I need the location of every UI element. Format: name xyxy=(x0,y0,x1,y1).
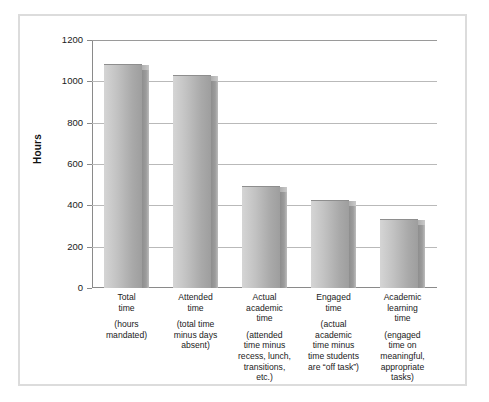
x-axis-label-sub: (actualacademictime minustime studentsar… xyxy=(299,319,368,372)
bar-slot xyxy=(230,40,299,288)
x-axis-label-main: Attendedtime xyxy=(161,292,230,313)
bar-slot xyxy=(368,40,437,288)
y-tick-label: 1000 xyxy=(62,77,83,87)
bar-top-face xyxy=(418,220,425,225)
bar[interactable] xyxy=(104,64,142,288)
plot-area: 020040060080010001200 xyxy=(92,40,437,288)
bar[interactable] xyxy=(380,219,418,288)
bar-side-face xyxy=(211,81,218,288)
x-axis-label-main: Engagedtime xyxy=(299,292,368,313)
x-axis-label-main: Actualacademictime xyxy=(230,292,299,324)
y-tick-label: 200 xyxy=(67,242,83,252)
bar-slot xyxy=(92,40,161,288)
bar[interactable] xyxy=(242,186,280,288)
x-axis-label-main: Totaltime xyxy=(92,292,161,313)
bar-side-face xyxy=(142,70,149,288)
y-tick-label: 400 xyxy=(67,201,83,211)
x-axis-label-sub: (engagedtime onmeaningful,appropriatetas… xyxy=(368,330,437,383)
x-axis-label: Attendedtime(total timeminus daysabsent) xyxy=(161,292,230,351)
x-axis-label-sub: (total timeminus daysabsent) xyxy=(161,319,230,351)
bar-top-face xyxy=(349,201,356,206)
bar-series xyxy=(92,40,437,288)
bar-side-face xyxy=(349,206,356,288)
y-axis-title: Hours xyxy=(32,134,43,164)
y-tick-label: 800 xyxy=(67,118,83,128)
x-axis-label: Actualacademictime(attendedtime minusrec… xyxy=(230,292,299,383)
bar[interactable] xyxy=(173,75,211,288)
x-axis-label-main: Academiclearningtime xyxy=(368,292,437,324)
bar-slot xyxy=(161,40,230,288)
x-axis-label: Totaltime(hoursmandated) xyxy=(92,292,161,340)
x-axis-label: Academiclearningtime(engagedtime onmeani… xyxy=(368,292,437,383)
bar-top-face xyxy=(280,187,287,192)
x-axis-label: Engagedtime(actualacademictime minustime… xyxy=(299,292,368,372)
x-axis-label-sub: (attendedtime minusrecess, lunch,transit… xyxy=(230,330,299,383)
x-axis-category-labels: Totaltime(hoursmandated)Attendedtime(tot… xyxy=(92,292,437,402)
bar-side-face xyxy=(280,192,287,288)
y-tick-label: 600 xyxy=(67,159,83,169)
y-tick-mark xyxy=(87,288,92,289)
bar-top-face xyxy=(142,65,149,70)
x-axis-label-sub: (hoursmandated) xyxy=(92,319,161,340)
bar[interactable] xyxy=(311,200,349,288)
chart-frame: Hours 020040060080010001200 Totaltime(ho… xyxy=(18,14,467,386)
bar-side-face xyxy=(418,225,425,288)
bar-slot xyxy=(299,40,368,288)
y-tick-label: 0 xyxy=(78,283,83,293)
bar-top-face xyxy=(211,76,218,81)
y-tick-label: 1200 xyxy=(62,35,83,45)
